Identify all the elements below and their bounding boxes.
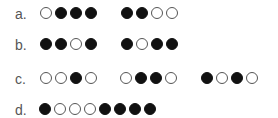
filled-circle-icon <box>70 7 82 19</box>
option-label: a. <box>15 6 27 22</box>
filled-circle-icon <box>70 72 82 84</box>
filled-circle-icon <box>55 7 67 19</box>
circle-sequence <box>40 72 97 84</box>
filled-circle-icon <box>55 38 67 50</box>
empty-circle-icon <box>84 103 96 115</box>
circle-sequence <box>121 38 178 50</box>
empty-circle-icon <box>40 72 52 84</box>
filled-circle-icon <box>85 7 97 19</box>
empty-circle-icon <box>246 72 258 84</box>
circle-sequence <box>201 72 258 84</box>
empty-circle-icon <box>136 38 148 50</box>
option-label: c. <box>15 71 26 87</box>
filled-circle-icon <box>39 103 51 115</box>
empty-circle-icon <box>54 103 66 115</box>
circle-sequence <box>121 7 178 19</box>
filled-circle-icon <box>144 103 156 115</box>
circle-sequence <box>120 72 177 84</box>
option-b: b. <box>0 37 278 53</box>
filled-circle-icon <box>40 38 52 50</box>
circle-sequence <box>40 38 97 50</box>
filled-circle-icon <box>201 72 213 84</box>
option-label: b. <box>15 37 27 53</box>
filled-circle-icon <box>99 103 111 115</box>
filled-circle-icon <box>114 103 126 115</box>
filled-circle-icon <box>121 38 133 50</box>
empty-circle-icon <box>166 7 178 19</box>
option-label: d. <box>15 102 27 118</box>
empty-circle-icon <box>151 7 163 19</box>
filled-circle-icon <box>85 38 97 50</box>
empty-circle-icon <box>70 38 82 50</box>
filled-circle-icon <box>151 38 163 50</box>
filled-circle-icon <box>231 72 243 84</box>
circle-sequence <box>40 7 97 19</box>
empty-circle-icon <box>85 72 97 84</box>
filled-circle-icon <box>136 7 148 19</box>
empty-circle-icon <box>55 72 67 84</box>
filled-circle-icon <box>166 38 178 50</box>
empty-circle-icon <box>69 103 81 115</box>
empty-circle-icon <box>120 72 132 84</box>
filled-circle-icon <box>150 72 162 84</box>
empty-circle-icon <box>165 72 177 84</box>
empty-circle-icon <box>40 7 52 19</box>
option-a: a. <box>0 6 278 22</box>
empty-circle-icon <box>216 72 228 84</box>
option-c: c. <box>0 71 278 87</box>
option-d: d. <box>0 102 278 118</box>
filled-circle-icon <box>121 7 133 19</box>
circle-sequence <box>39 103 156 115</box>
filled-circle-icon <box>135 72 147 84</box>
filled-circle-icon <box>129 103 141 115</box>
